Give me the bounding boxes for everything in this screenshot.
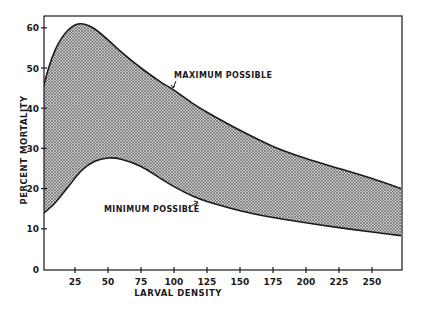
range-fill xyxy=(42,24,401,236)
mortality-range-band xyxy=(42,24,401,236)
y-tick-label: 60 xyxy=(26,23,39,33)
mortality-chart: 255075100125150175200225250 010203040506… xyxy=(0,0,421,311)
y-tick-label: 50 xyxy=(26,64,39,74)
x-tick-label: 25 xyxy=(69,277,82,287)
x-tick-label: 175 xyxy=(264,277,283,287)
x-tick-label: 100 xyxy=(165,277,184,287)
x-axis-label: LARVAL DENSITY xyxy=(134,288,222,298)
x-tick-label: 225 xyxy=(330,277,349,287)
x-tick-label: 50 xyxy=(102,277,115,287)
x-tick-label: 250 xyxy=(363,277,382,287)
y-tick-label: 10 xyxy=(26,224,39,234)
y-axis-label: PERCENT MORTALITY xyxy=(19,95,29,204)
max-possible-annotation: MAXIMUM POSSIBLE xyxy=(174,71,272,80)
x-tick-label: 150 xyxy=(231,277,250,287)
x-tick-label: 75 xyxy=(135,277,148,287)
min-possible-annotation: MINIMUM POSSIBLE xyxy=(104,205,200,214)
y-tick-label: 0 xyxy=(33,265,39,275)
max-arrow-icon xyxy=(171,81,176,88)
x-tick-label: 125 xyxy=(198,277,217,287)
x-tick-label: 200 xyxy=(297,277,316,287)
